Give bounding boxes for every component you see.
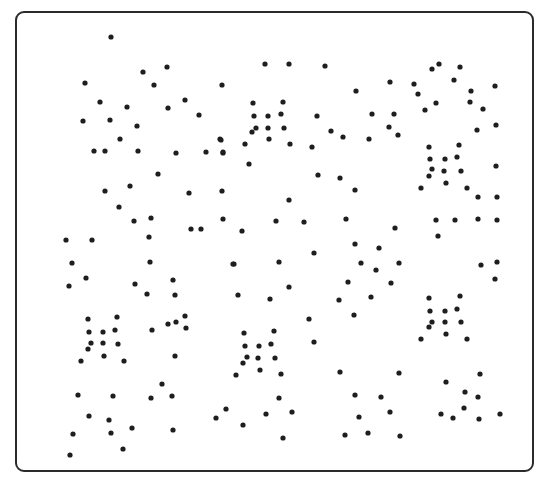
dot [165, 105, 170, 110]
dot [242, 343, 247, 348]
dot [429, 66, 434, 71]
dot [457, 64, 462, 69]
dot [376, 245, 381, 250]
dot [63, 237, 68, 242]
dot [70, 431, 75, 436]
dot [442, 156, 447, 161]
dot [358, 260, 363, 265]
dot [78, 358, 83, 363]
dot [131, 218, 136, 223]
dot [262, 61, 267, 66]
dot [345, 279, 350, 284]
dot [280, 435, 285, 440]
dot [427, 308, 432, 313]
dot [415, 91, 420, 96]
dot [89, 237, 94, 242]
dot [368, 294, 373, 299]
dot [196, 112, 201, 117]
dot [108, 34, 113, 39]
dot [88, 340, 93, 345]
dot [418, 336, 423, 341]
dot [365, 430, 370, 435]
dot [352, 392, 357, 397]
dot [220, 216, 225, 221]
dot [353, 88, 358, 93]
dot [476, 416, 481, 421]
dot [468, 88, 473, 93]
dot [378, 394, 383, 399]
dot [159, 381, 164, 386]
dot [328, 128, 333, 133]
dot [458, 319, 463, 324]
dot [433, 100, 438, 105]
dot [436, 61, 441, 66]
dot [112, 327, 117, 332]
dot [497, 411, 502, 416]
dot [276, 395, 281, 400]
dot [387, 79, 392, 84]
dot [251, 113, 256, 118]
dot [315, 172, 320, 177]
dot [392, 225, 397, 230]
dot [80, 118, 85, 123]
dot [342, 432, 347, 437]
dot [311, 339, 316, 344]
dot [478, 262, 483, 267]
dot [442, 319, 447, 324]
dot [233, 372, 238, 377]
dot [475, 216, 480, 221]
dot [429, 166, 434, 171]
dot [396, 260, 401, 265]
dot [235, 292, 240, 297]
dot [114, 314, 119, 319]
dot [391, 111, 396, 116]
dot [239, 228, 244, 233]
dot [265, 125, 270, 130]
dot [475, 394, 480, 399]
dot [272, 355, 277, 360]
dot [442, 308, 447, 313]
dot [286, 197, 291, 202]
dot [134, 123, 139, 128]
dot [467, 99, 472, 104]
dot [257, 367, 262, 372]
dot [477, 371, 482, 376]
dot [116, 204, 121, 209]
dot [426, 295, 431, 300]
dot [276, 259, 281, 264]
dot [246, 161, 251, 166]
dot [140, 69, 145, 74]
dot [458, 168, 463, 173]
dot [494, 194, 499, 199]
dot [213, 415, 218, 420]
dot [336, 297, 341, 302]
dot [286, 61, 291, 66]
dot [250, 100, 255, 105]
dot [121, 358, 126, 363]
dot-field [0, 0, 545, 490]
dot [494, 259, 499, 264]
dot [69, 260, 74, 265]
dot [173, 150, 178, 155]
dot [219, 82, 224, 87]
dot [106, 417, 111, 422]
dot [155, 171, 160, 176]
dot [242, 141, 247, 146]
dot [452, 217, 457, 222]
dot [198, 226, 203, 231]
dot [493, 163, 498, 168]
dot [183, 325, 188, 330]
dot [240, 422, 245, 427]
dot [289, 409, 294, 414]
dot [462, 389, 467, 394]
dot [85, 346, 90, 351]
dot [461, 405, 466, 410]
dot [433, 217, 438, 222]
dot [356, 414, 361, 419]
dot [268, 341, 273, 346]
dot [396, 370, 401, 375]
dot [426, 324, 431, 329]
dot [443, 331, 448, 336]
dot [352, 187, 357, 192]
dot [273, 218, 278, 223]
